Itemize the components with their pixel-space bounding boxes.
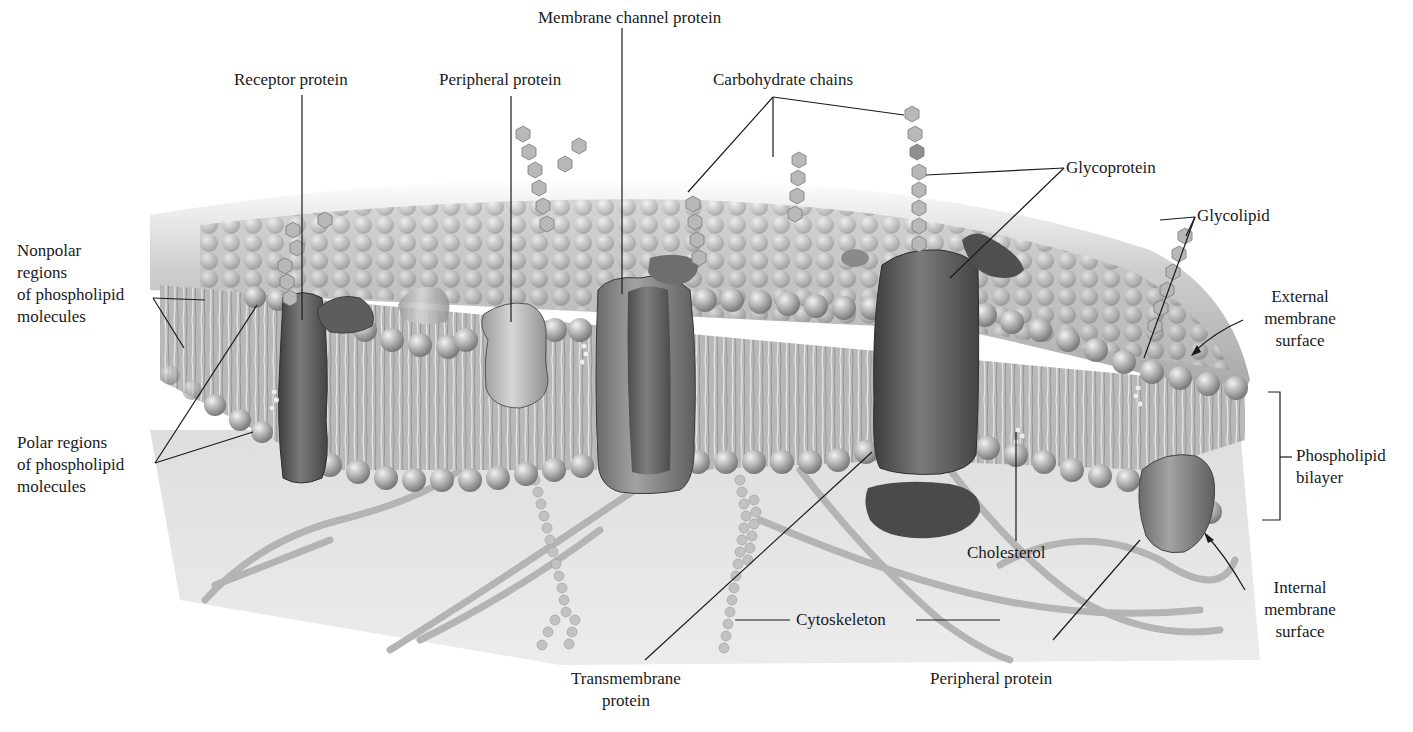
label-polar-line-1: Polar regions (17, 432, 124, 454)
label-nonpolar-line-4: molecules (17, 306, 124, 328)
label-transmembrane-protein: Transmembrane protein (566, 668, 686, 712)
label-cytoskeleton: Cytoskeleton (796, 609, 886, 631)
label-peripheral-protein-top: Peripheral protein (439, 69, 561, 91)
label-internal-membrane-surface: Internal membrane surface (1252, 577, 1348, 643)
peripheral-protein-top-shape (482, 303, 548, 408)
label-glycolipid: Glycolipid (1197, 205, 1270, 227)
label-cholesterol: Cholesterol (967, 542, 1045, 564)
cell-membrane-diagram: Membrane channel protein Receptor protei… (0, 0, 1413, 732)
label-external-line-2: membrane (1250, 308, 1350, 330)
label-external-line-1: External (1250, 286, 1350, 308)
label-phospholipid-bilayer: Phospholipid bilayer (1296, 445, 1386, 489)
label-nonpolar-line-3: of phospholipid (17, 284, 124, 306)
label-external-membrane-surface: External membrane surface (1250, 286, 1350, 352)
transmembrane-glycoprotein-shape (874, 250, 979, 475)
label-transmembrane-line-1: Transmembrane (566, 668, 686, 690)
label-glycoprotein: Glycoprotein (1066, 157, 1156, 179)
peripheral-protein-under-glycoprotein (865, 482, 980, 538)
label-bilayer-line-1: Phospholipid (1296, 445, 1386, 467)
label-internal-line-3: surface (1252, 621, 1348, 643)
label-polar-line-3: molecules (17, 476, 124, 498)
label-polar-regions: Polar regions of phospholipid molecules (17, 432, 124, 498)
label-internal-line-1: Internal (1252, 577, 1348, 599)
label-bilayer-line-2: bilayer (1296, 467, 1386, 489)
label-external-line-3: surface (1250, 330, 1350, 352)
label-receptor-protein: Receptor protein (234, 69, 348, 91)
label-membrane-channel-protein: Membrane channel protein (538, 7, 721, 29)
label-nonpolar-line-1: Nonpolar (17, 240, 124, 262)
label-carbohydrate-chains: Carbohydrate chains (713, 69, 853, 91)
label-nonpolar-regions: Nonpolar regions of phospholipid molecul… (17, 240, 124, 328)
label-polar-line-2: of phospholipid (17, 454, 124, 476)
membrane-illustration (0, 0, 1413, 732)
label-peripheral-protein-bottom: Peripheral protein (930, 668, 1052, 690)
label-internal-line-2: membrane (1252, 599, 1348, 621)
label-transmembrane-line-2: protein (566, 690, 686, 712)
label-nonpolar-line-2: regions (17, 262, 124, 284)
